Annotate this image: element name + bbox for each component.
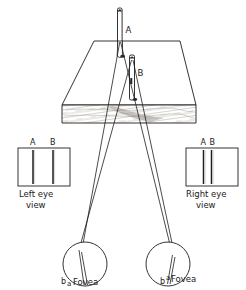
right-eye-image-a-label: a [166, 274, 170, 282]
pin-a-label: A [126, 25, 132, 35]
right-view-label-b: B [210, 138, 216, 147]
figure-canvas: A B [0, 0, 246, 290]
left-view-caption-line1: Left eye [19, 189, 53, 199]
pin-b-label: B [138, 68, 144, 78]
binocular-parallax-figure: A B [0, 0, 246, 290]
left-view-label-b: B [50, 138, 56, 147]
right-eye-image-b-label: b [160, 277, 165, 286]
left-view-caption-line2: view [26, 200, 46, 210]
right-view-label-a: A [201, 138, 207, 147]
left-eye-fovea-label: Fovea [73, 277, 98, 287]
right-view-caption-line1: Right eye [186, 189, 227, 199]
left-eye-view-panel: A B Left eye view [18, 138, 70, 210]
board-top-surface [62, 41, 196, 105]
left-eye-group: b a Fovea [61, 242, 107, 288]
left-eye-image-a-label: a [67, 280, 71, 288]
right-eye-view-panel: A B Right eye view [186, 138, 238, 210]
left-eye-image-b-label: b [61, 277, 66, 286]
right-eye-fovea-label: Fovea [171, 274, 196, 284]
left-eye-view-frame [18, 148, 70, 186]
board-group [62, 41, 196, 123]
left-view-label-a: A [30, 138, 36, 147]
right-view-caption-line2: view [196, 200, 216, 210]
right-eye-group: b a Fovea [146, 242, 196, 286]
